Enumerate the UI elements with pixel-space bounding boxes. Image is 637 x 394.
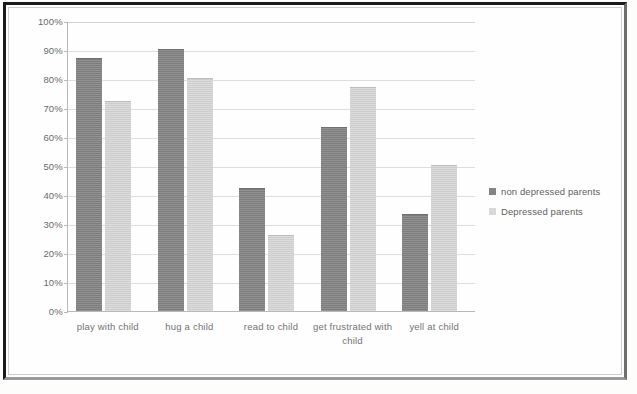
bar-non-depressed[interactable] [321, 127, 347, 311]
bar-chart: 100%90%80%70%60%50%40%30%20%10%0% play w… [0, 0, 637, 394]
legend-item[interactable]: Depressed parents [489, 201, 635, 221]
y-axis-tick-label: 20% [11, 248, 63, 259]
bar-non-depressed[interactable] [239, 188, 265, 311]
y-axis-tick-label: 50% [11, 161, 63, 172]
x-axis-category-label: read to child [225, 320, 317, 334]
bar-depressed[interactable] [350, 87, 376, 311]
legend-swatch-icon [489, 188, 496, 195]
legend-swatch-icon [489, 208, 496, 215]
legend-item[interactable]: non depressed parents [489, 181, 635, 201]
y-axis-tick-label: 100% [11, 16, 63, 27]
x-axis-category-label: play with child [62, 320, 154, 334]
legend-item-label: Depressed parents [501, 206, 583, 217]
y-axis-tick-label: 90% [11, 45, 63, 56]
y-axis-tick-label: 60% [11, 132, 63, 143]
chart-legend: non depressed parentsDepressed parents [489, 181, 635, 221]
bar-depressed[interactable] [105, 101, 131, 311]
screenshot-root: 100%90%80%70%60%50%40%30%20%10%0% play w… [0, 0, 637, 394]
bar-non-depressed[interactable] [76, 58, 102, 311]
bar-group [150, 22, 232, 311]
y-axis-tick-label: 40% [11, 190, 63, 201]
legend-item-label: non depressed parents [501, 186, 600, 197]
bar-group [313, 22, 395, 311]
y-axis-tick-label: 30% [11, 219, 63, 230]
bar-group [231, 22, 313, 311]
y-axis-tick-label: 0% [11, 306, 63, 317]
y-axis-tick [64, 312, 68, 313]
bar-depressed[interactable] [431, 165, 457, 311]
y-axis-tick-label: 80% [11, 74, 63, 85]
x-axis-category-label: hug a child [143, 320, 235, 334]
bar-depressed[interactable] [187, 78, 213, 311]
bar-group [68, 22, 150, 311]
plot-area [67, 22, 475, 312]
bar-group [394, 22, 476, 311]
x-axis-category-label: yell at child [388, 320, 480, 334]
x-axis-category-label: get frustrated with child [307, 320, 399, 348]
bar-depressed[interactable] [268, 235, 294, 311]
y-axis-tick-label: 70% [11, 103, 63, 114]
bar-non-depressed[interactable] [402, 214, 428, 311]
y-axis-tick-label: 10% [11, 277, 63, 288]
bar-non-depressed[interactable] [158, 49, 184, 311]
